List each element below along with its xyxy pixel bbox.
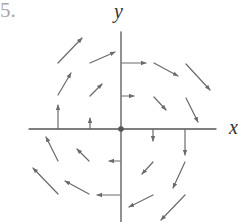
vector-arrow (58, 38, 82, 63)
vector-arrow (58, 73, 71, 95)
vector-arrow (46, 137, 58, 161)
vector-arrow (90, 84, 102, 96)
vector-arrow (90, 52, 115, 63)
vector-arrow (173, 162, 185, 188)
vector-arrow (154, 63, 178, 76)
vector-arrow (186, 98, 198, 122)
vector-arrow (154, 97, 166, 110)
vector-arrow (161, 195, 185, 220)
vector-arrow (142, 162, 153, 174)
vector-arrow (129, 195, 153, 207)
vector-arrow (186, 64, 210, 90)
vector-arrow (65, 181, 89, 194)
vector-field-diagram (0, 0, 250, 222)
origin-dot (118, 126, 124, 132)
vector-arrow (33, 168, 58, 194)
vector-arrow (77, 149, 89, 161)
